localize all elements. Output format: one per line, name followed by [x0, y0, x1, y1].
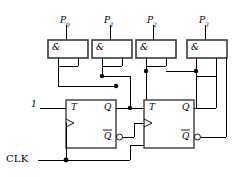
- output-label-p3: P3: [199, 8, 209, 28]
- ff1-t-label: T: [149, 102, 155, 112]
- constant-one-label: 1: [31, 99, 37, 109]
- junction-dot-1: [100, 74, 104, 78]
- junction-dot-5: [128, 106, 132, 110]
- and-gate-0-symbol: &: [52, 42, 60, 52]
- ff0-t-label: T: [71, 102, 77, 112]
- circuit-diagram: P0 P1 P2 P3 & & & & T Q Q T Q Q 1 CLK: [0, 0, 236, 177]
- ff0-qbar-bubble: [117, 134, 123, 140]
- and-gate-input-pins: [58, 58, 216, 86]
- ff1-qbar-bubble: [195, 134, 201, 140]
- and-gate-boxes: [48, 40, 227, 58]
- output-label-p1: P1: [104, 8, 114, 28]
- ff1-q-label: Q: [182, 102, 189, 112]
- junction-dot-2: [114, 84, 118, 88]
- ff0-qbar-label: Q: [104, 131, 111, 141]
- junction-dot-4: [194, 69, 198, 73]
- ff1-qbar-label: Q: [182, 131, 189, 141]
- ff0-q-label: Q: [104, 102, 111, 112]
- clk-input-label: CLK: [6, 153, 28, 164]
- and-gate-2-symbol: &: [140, 42, 148, 52]
- junction-dot-3: [144, 69, 148, 73]
- p-label-stems: [66, 25, 205, 40]
- and-gate-1-symbol: &: [96, 42, 104, 52]
- junction-dot-clk: [64, 158, 69, 163]
- output-label-p0: P0: [60, 8, 70, 28]
- and-gate-3-symbol: &: [191, 42, 199, 52]
- output-label-p2: P2: [147, 8, 157, 28]
